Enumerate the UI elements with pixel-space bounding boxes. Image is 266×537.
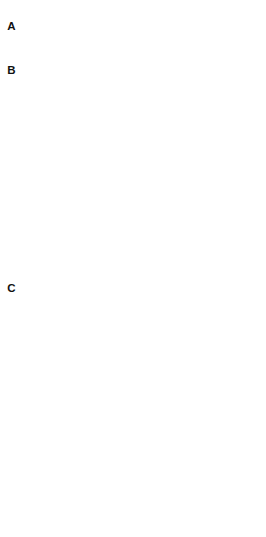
plate-inner [24, 10, 258, 529]
label-gutter: A B C [0, 0, 24, 537]
halftone-plate [24, 10, 258, 529]
row-label-c: C [0, 283, 23, 295]
tone-layer-blobs [24, 10, 258, 529]
row-label-b: B [0, 65, 23, 77]
row-label-a: A [0, 21, 23, 33]
figure-panel: A B C [0, 0, 266, 537]
